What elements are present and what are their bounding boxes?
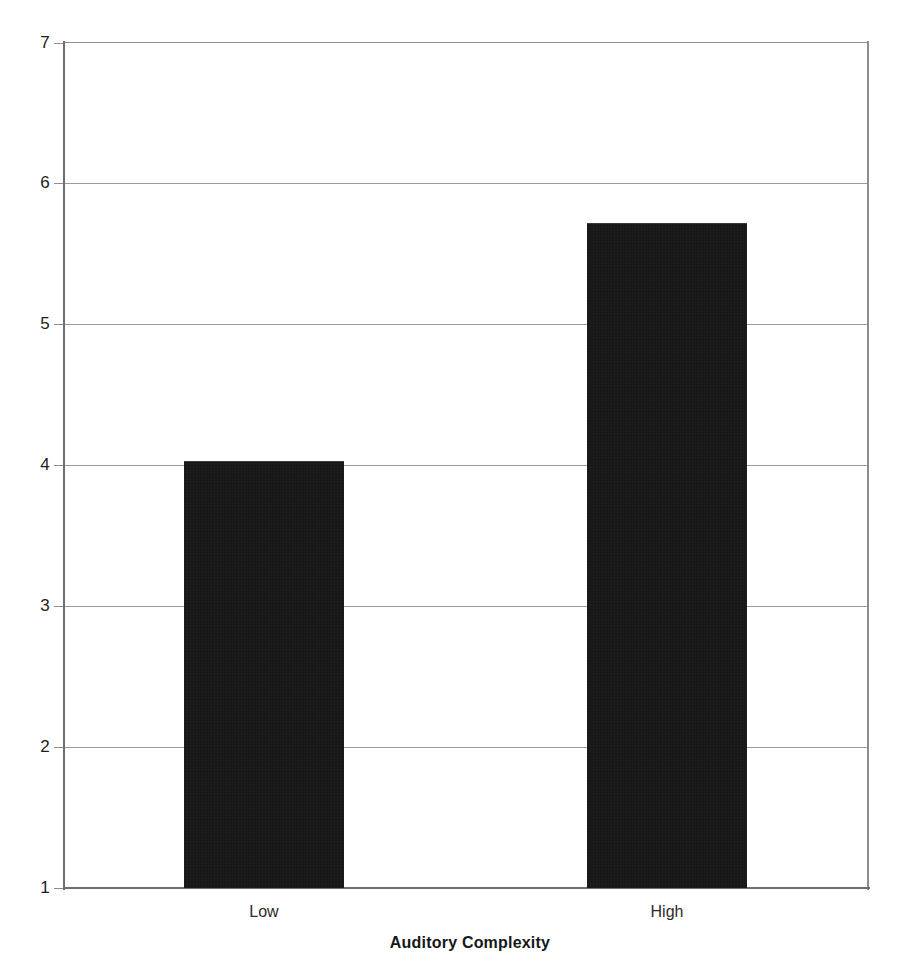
x-tick-label-high: High <box>651 903 684 921</box>
y-tick-label: 6 <box>6 173 50 193</box>
y-gridline <box>63 183 869 184</box>
y-gridline <box>63 324 869 325</box>
y-tick-label: 3 <box>6 596 50 616</box>
y-tick-label: 2 <box>6 737 50 757</box>
bar-high <box>587 223 747 888</box>
y-tick-mark <box>54 43 63 44</box>
y-tick-label: 7 <box>6 33 50 53</box>
y-tick-mark <box>54 183 63 184</box>
y-tick-mark <box>54 465 63 466</box>
y-axis-line <box>63 41 65 890</box>
y-tick-mark <box>54 747 63 748</box>
y-tick-label: 1 <box>6 878 50 898</box>
y-tick-mark <box>54 606 63 607</box>
plot-right-border <box>867 41 869 890</box>
bar-low <box>184 461 344 888</box>
bar-chart: 1234567 LowHigh Auditory Complexity <box>0 0 901 978</box>
y-tick-mark <box>54 888 63 889</box>
y-tick-label: 5 <box>6 314 50 334</box>
x-axis-title: Auditory Complexity <box>390 934 550 952</box>
y-tick-label: 4 <box>6 455 50 475</box>
plot-top-border <box>63 42 869 43</box>
y-tick-mark <box>54 324 63 325</box>
x-tick-label-low: Low <box>249 903 278 921</box>
